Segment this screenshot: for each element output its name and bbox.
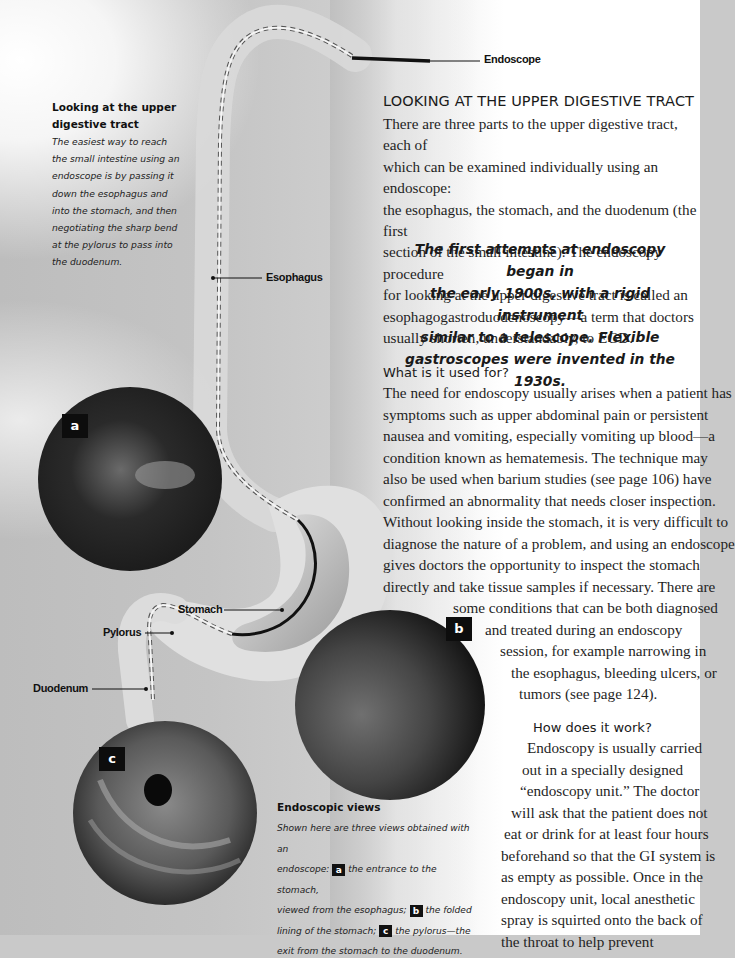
badge-view-a: a: [62, 414, 88, 438]
label-endoscope: Endoscope: [484, 53, 541, 65]
caption-body: Shown here are three views obtained with…: [277, 818, 477, 958]
section-heading-how: How does it work?: [533, 720, 652, 735]
caption-title: Endoscopic views: [277, 801, 381, 813]
inline-badge-a: a: [332, 864, 345, 876]
sidebar-body: The easiest way to reach the small intes…: [52, 133, 182, 271]
section-heading-uses: What is it used for?: [383, 365, 509, 380]
badge-view-b: b: [446, 617, 472, 641]
article-heading: LOOKING AT THE UPPER DIGESTIVE TRACT: [383, 93, 703, 109]
label-duodenum: Duodenum: [33, 682, 88, 694]
label-pylorus: Pylorus: [103, 626, 141, 638]
inline-badge-c: c: [379, 925, 392, 937]
badge-view-c: c: [99, 747, 125, 771]
sidebar-title: Looking at the upper digestive tract: [52, 99, 182, 133]
label-esophagus: Esophagus: [266, 271, 323, 283]
inline-badge-b: b: [410, 905, 423, 917]
label-stomach: Stomach: [178, 603, 222, 615]
